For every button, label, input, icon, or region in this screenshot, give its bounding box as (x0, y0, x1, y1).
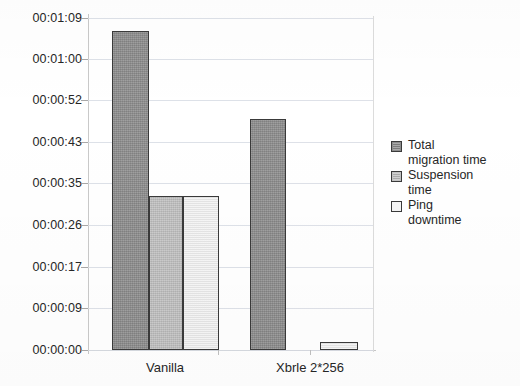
gridline (88, 350, 373, 351)
x-axis-label-xbrle: Xbrle 2*256 (276, 360, 344, 375)
chart-legend: Total migration time Suspension time Pin… (391, 138, 520, 228)
legend-swatch-icon (391, 141, 402, 152)
y-axis-label: 00:00:26 (33, 218, 82, 232)
y-axis-label: 00:00:17 (33, 260, 82, 274)
y-axis-label: 00:00:09 (33, 301, 82, 315)
legend-item-label: Total migration time (408, 138, 487, 167)
y-axis-label: 00:01:09 (33, 11, 82, 25)
y-axis-label: 00:00:43 (33, 135, 82, 149)
bar-xbrle-total-migration-time (250, 119, 286, 350)
legend-item-total-migration-time: Total migration time (391, 138, 520, 167)
y-axis-label: 00:00:00 (33, 343, 82, 357)
y-axis-label: 00:01:00 (33, 52, 82, 66)
legend-item-label: Suspension time (408, 168, 473, 197)
plot-area (88, 18, 373, 350)
legend-item-label: Ping downtime (408, 198, 462, 227)
bar-xbrle-ping-downtime (320, 342, 358, 350)
y-axis-labels: 00:01:09 00:01:00 00:00:52 00:00:43 00:0… (0, 0, 82, 386)
legend-item-ping-downtime: Ping downtime (391, 198, 520, 227)
bar-vanilla-suspension-time (149, 196, 183, 350)
x-axis-tick (310, 350, 311, 355)
gridline (88, 18, 373, 19)
plot-right-border (373, 16, 374, 352)
y-axis-label: 00:00:35 (33, 176, 82, 190)
x-axis-label-vanilla: Vanilla (146, 360, 184, 375)
bar-vanilla-ping-downtime (183, 196, 219, 350)
x-axis-tick (218, 350, 219, 355)
legend-swatch-icon (391, 201, 402, 212)
y-axis-label: 00:00:52 (33, 93, 82, 107)
legend-swatch-icon (391, 171, 402, 182)
bar-chart: 00:01:09 00:01:00 00:00:52 00:00:43 00:0… (0, 0, 520, 386)
bar-vanilla-total-migration-time (112, 31, 149, 350)
legend-item-suspension-time: Suspension time (391, 168, 520, 197)
